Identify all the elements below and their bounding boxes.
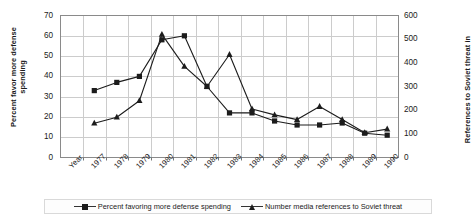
left-tick-label: 20 xyxy=(33,112,53,121)
right-tick-label: 100 xyxy=(404,129,424,138)
data-point xyxy=(249,106,255,112)
data-point xyxy=(227,110,232,115)
data-point xyxy=(226,51,232,57)
left-tick-label: 50 xyxy=(33,51,53,60)
data-point xyxy=(159,31,165,37)
right-tick-label: 500 xyxy=(404,34,424,43)
series-percent-defense-spending xyxy=(92,33,390,138)
data-point xyxy=(137,74,142,79)
legend-item-percent: Percent favoring more defense spending xyxy=(74,202,231,211)
left-tick-label: 0 xyxy=(33,153,53,162)
data-series-layer xyxy=(91,31,390,138)
data-point xyxy=(182,33,187,38)
left-axis-title: Percent favor more defense spending xyxy=(9,3,27,151)
data-point xyxy=(272,118,277,123)
data-point xyxy=(317,122,322,127)
right-tick-label: 400 xyxy=(404,58,424,67)
left-tick-label: 60 xyxy=(33,31,53,40)
legend-item-media: Number media references to Soviet threat xyxy=(241,202,402,211)
chart-container: Percent favor more defense spending Refe… xyxy=(0,0,473,221)
right-tick-label: 300 xyxy=(404,82,424,91)
data-point xyxy=(384,126,390,132)
right-tick-label: 200 xyxy=(404,105,424,114)
plot-area xyxy=(0,0,473,221)
data-point xyxy=(385,133,390,138)
left-tick-label: 30 xyxy=(33,92,53,101)
series-media-references xyxy=(91,31,390,135)
legend-triangle-marker-icon xyxy=(241,202,263,211)
gridlines xyxy=(61,16,399,158)
legend-label-percent: Percent favoring more defense spending xyxy=(98,202,231,211)
data-point xyxy=(317,103,323,109)
data-point xyxy=(136,97,142,103)
chart-legend: Percent favoring more defense spending N… xyxy=(44,199,432,214)
data-point xyxy=(295,122,300,127)
left-tick-label: 10 xyxy=(33,132,53,141)
data-point xyxy=(114,114,120,120)
data-point xyxy=(92,88,97,93)
right-tick-label: 600 xyxy=(404,11,424,20)
right-tick-label: 0 xyxy=(404,153,424,162)
left-tick-label: 40 xyxy=(33,71,53,80)
legend-square-marker-icon xyxy=(74,202,96,211)
left-tick-label: 70 xyxy=(33,11,53,20)
right-axis-title: References to Soviet threat in xyxy=(463,2,472,178)
data-point xyxy=(114,80,119,85)
legend-label-media: Number media references to Soviet threat xyxy=(265,202,402,211)
